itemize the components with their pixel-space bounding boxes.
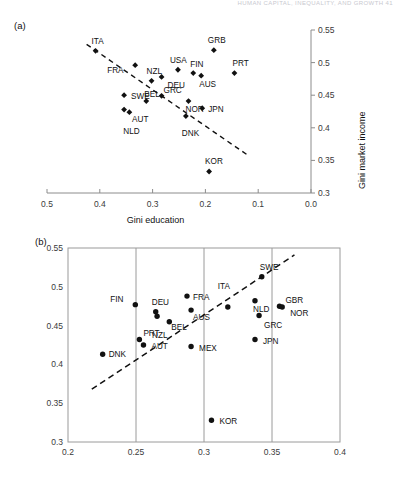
data-point-label: ITA bbox=[218, 283, 230, 291]
data-point-label: FRA bbox=[107, 67, 123, 75]
panel-a-y-axis-title: Gini market income bbox=[357, 111, 367, 189]
data-point-label: DNK bbox=[109, 351, 126, 359]
data-point bbox=[154, 314, 159, 319]
data-point-label: MEX bbox=[199, 345, 217, 353]
data-point bbox=[259, 274, 264, 279]
x-tick-label: 0.0 bbox=[301, 199, 321, 209]
data-point bbox=[232, 70, 238, 76]
x-tick-label: 0.4 bbox=[90, 199, 110, 209]
x-tick-label: 0.2 bbox=[54, 447, 82, 457]
x-tick-label: 0.3 bbox=[143, 199, 163, 209]
y-tick-label: 0.55 bbox=[0, 243, 63, 253]
y-tick-label: 0.35 bbox=[0, 398, 63, 408]
data-point-label: NZL bbox=[152, 332, 167, 340]
data-point-label: USA bbox=[170, 57, 187, 65]
data-point-label: GRC bbox=[164, 87, 182, 95]
data-point bbox=[93, 48, 99, 54]
data-point-label: FIN bbox=[190, 61, 203, 69]
data-point-label: FIN bbox=[110, 296, 123, 304]
data-point-label: KOR bbox=[205, 158, 223, 166]
data-point-label: AUT bbox=[132, 116, 148, 124]
y-tick-label: 0.35 bbox=[318, 155, 335, 165]
data-point-label: NLD bbox=[123, 128, 139, 136]
data-point bbox=[188, 307, 193, 312]
data-point-label: GRC bbox=[264, 322, 282, 330]
data-point bbox=[190, 70, 196, 76]
data-point-label: SWE bbox=[260, 264, 279, 272]
data-point bbox=[175, 67, 181, 73]
x-tick-label: 0.2 bbox=[195, 199, 215, 209]
data-point bbox=[280, 304, 285, 309]
data-point-label: BEL bbox=[144, 91, 159, 99]
data-point-label: NZL bbox=[147, 68, 162, 76]
y-tick-label: 0.45 bbox=[0, 321, 63, 331]
y-tick-label: 0.3 bbox=[318, 188, 330, 198]
y-tick-label: 0.3 bbox=[0, 437, 63, 447]
data-point-label: GBR bbox=[285, 297, 303, 305]
data-point bbox=[206, 169, 212, 175]
y-tick-label: 0.45 bbox=[318, 90, 335, 100]
data-point bbox=[209, 418, 214, 423]
data-point-label: PRT bbox=[232, 60, 248, 68]
data-point-label: AUS bbox=[193, 314, 210, 322]
data-point-label: AUS bbox=[199, 81, 216, 89]
y-tick-label: 0.5 bbox=[318, 58, 330, 68]
data-point-label: BEL bbox=[171, 324, 186, 332]
data-point-label: DEU bbox=[152, 299, 169, 307]
panel-b: (b) 0.20.250.30.350.40.30.350.40.450.50.… bbox=[0, 232, 399, 486]
data-point-label: NOR bbox=[186, 106, 204, 114]
y-tick-label: 0.55 bbox=[318, 25, 335, 35]
figure-container: HUMAN CAPITAL, INEQUALITY, AND GROWTH 41… bbox=[0, 0, 399, 486]
panel-b-plot: 0.20.250.30.350.40.30.350.40.450.50.55DN… bbox=[0, 232, 399, 486]
data-point bbox=[252, 337, 257, 342]
data-point bbox=[133, 302, 138, 307]
panel-a-x-axis-title: Gini education bbox=[0, 215, 311, 225]
y-tick-label: 0.4 bbox=[0, 359, 63, 369]
x-tick-label: 0.1 bbox=[248, 199, 268, 209]
data-point-label: NOR bbox=[290, 310, 308, 318]
data-point bbox=[153, 309, 158, 314]
data-point-label: JPN bbox=[208, 106, 223, 114]
data-point-label: GRB bbox=[208, 37, 226, 45]
data-point-label: ITA bbox=[92, 38, 104, 46]
data-point bbox=[225, 304, 230, 309]
data-point bbox=[186, 98, 192, 104]
x-tick-label: 0.4 bbox=[326, 447, 354, 457]
data-point-label: NLD bbox=[253, 306, 269, 314]
data-point bbox=[121, 107, 127, 113]
y-tick-label: 0.4 bbox=[318, 123, 330, 133]
data-point bbox=[100, 352, 105, 357]
panel-a: (a) 0.50.40.30.20.10.00.30.350.40.450.50… bbox=[0, 12, 399, 232]
data-point bbox=[132, 62, 138, 68]
data-point bbox=[188, 344, 193, 349]
data-point-label: JPN bbox=[263, 338, 278, 346]
data-point-label: FRA bbox=[193, 294, 209, 302]
running-head: HUMAN CAPITAL, INEQUALITY, AND GROWTH 41 bbox=[238, 0, 393, 6]
data-point bbox=[121, 92, 127, 98]
data-point-label: DNK bbox=[182, 130, 199, 138]
data-point-label: AUT bbox=[151, 343, 167, 351]
data-point bbox=[184, 293, 189, 298]
data-point bbox=[211, 47, 217, 53]
data-point-label: KOR bbox=[219, 418, 237, 426]
data-point bbox=[149, 78, 155, 84]
x-tick-label: 0.35 bbox=[258, 447, 286, 457]
x-tick-label: 0.25 bbox=[122, 447, 150, 457]
data-point bbox=[198, 73, 204, 79]
panel-a-plot: 0.50.40.30.20.10.00.30.350.40.450.50.55G… bbox=[0, 12, 399, 232]
data-point bbox=[137, 337, 142, 342]
x-tick-label: 0.3 bbox=[190, 447, 218, 457]
data-point bbox=[252, 298, 257, 303]
data-point bbox=[141, 342, 146, 347]
y-tick-label: 0.5 bbox=[0, 282, 63, 292]
x-tick-label: 0.5 bbox=[37, 199, 57, 209]
